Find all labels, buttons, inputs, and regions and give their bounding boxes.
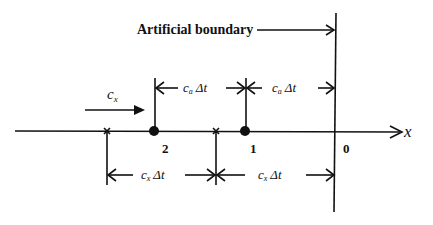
diagram-canvas: Artificial boundary x cx caΔt caΔt cxΔt … — [0, 0, 433, 225]
axis-label: x — [403, 122, 412, 141]
top-interval-label-2: caΔt — [272, 80, 296, 96]
node-1-label: 1 — [250, 141, 257, 156]
bottom-interval-label-2: cxΔt — [258, 167, 282, 183]
top-interval-label-1: caΔt — [183, 80, 207, 96]
node-2-label: 2 — [162, 141, 169, 156]
node-1 — [240, 126, 250, 136]
x-axis — [15, 131, 400, 132]
velocity-label: cx — [107, 86, 118, 104]
artificial-boundary-line — [334, 13, 336, 212]
boundary-node-label: 0 — [343, 141, 350, 156]
node-2 — [149, 126, 159, 136]
boundary-label: Artificial boundary — [137, 22, 253, 37]
bottom-interval-label-1: cxΔt — [141, 167, 165, 183]
velocity-arrowhead-icon — [134, 105, 145, 115]
